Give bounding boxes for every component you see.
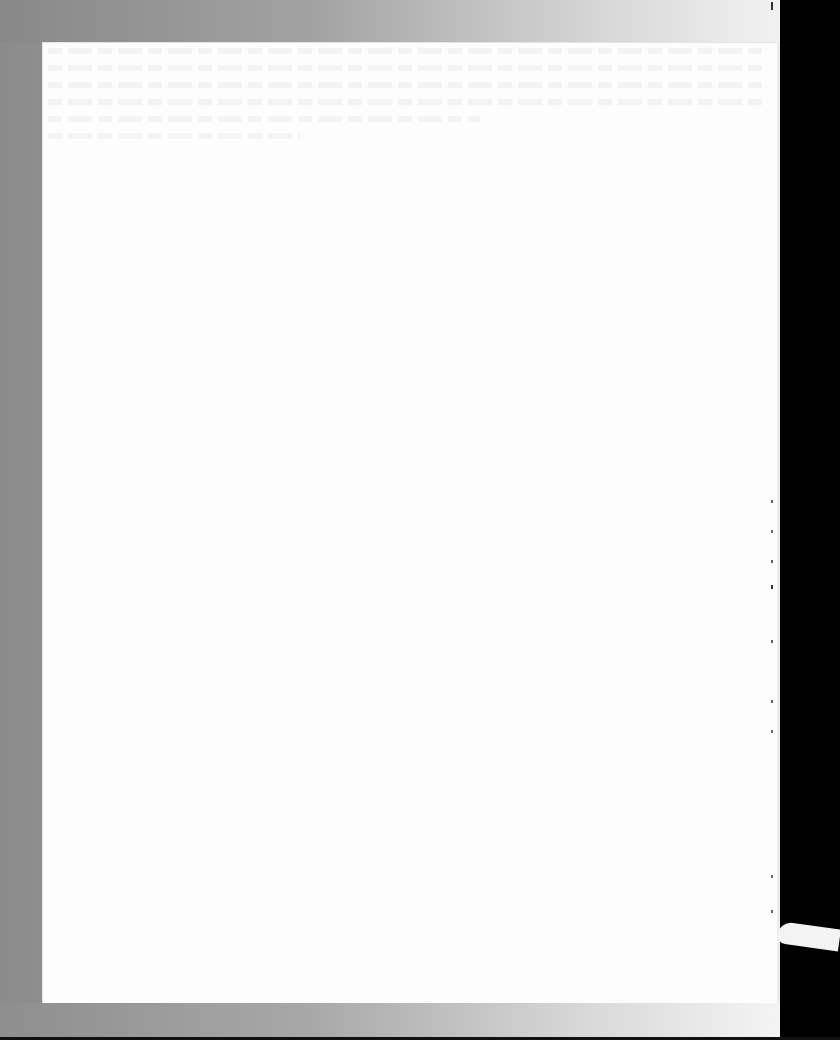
bleed-through-text	[48, 48, 768, 158]
scanner-bed-top	[0, 0, 780, 42]
scanner-bed-bottom	[0, 1003, 780, 1037]
page-curl	[776, 921, 840, 951]
page-edge-marks	[770, 0, 774, 1003]
scanned-page	[42, 42, 777, 1003]
scan-image	[0, 0, 840, 1040]
